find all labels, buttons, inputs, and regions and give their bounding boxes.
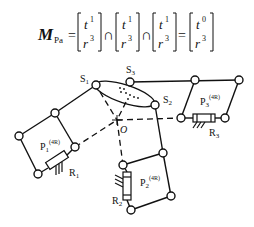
label-p2: P2(4R) <box>140 175 160 190</box>
label-r1: R1 <box>69 167 80 180</box>
slider-r3 <box>193 114 215 128</box>
label-s1: S1 <box>80 73 90 86</box>
label-origin: O <box>120 124 127 135</box>
slider-r1 <box>46 151 69 175</box>
label-p1: P1(4R) <box>40 139 60 154</box>
label-r2: R2 <box>112 195 123 208</box>
label-s3: S3 <box>126 64 136 77</box>
label-r3: R3 <box>209 127 220 140</box>
label-s2: S2 <box>163 94 173 107</box>
label-p3: P3(4R) <box>200 94 220 109</box>
parallel-mechanism-diagram: S1 S3 S2 O P3(4R) P1(4R) P2(4R) R1 R2 R3 <box>0 0 254 227</box>
